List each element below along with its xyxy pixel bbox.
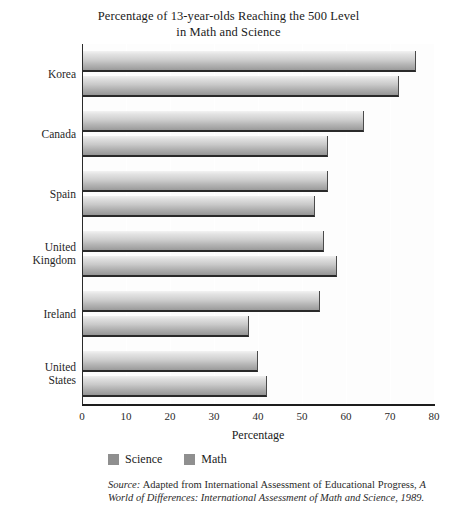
source-note: Source: Adapted from International Asses… [108,478,426,504]
legend-label-science: Science [125,452,162,467]
x-tick-label-40: 40 [238,410,278,422]
bar-science-korea [82,51,416,72]
y-tick-label-line: United [0,241,76,254]
legend-swatch-math [184,454,195,465]
y-tick-label-line: Korea [0,68,76,81]
bar-science-ireland [82,291,320,312]
x-tick-label-0: 0 [62,410,102,422]
bar-science-united-kingdom [82,231,324,252]
y-tick-label-line: Canada [0,128,76,141]
gridline-80 [434,44,435,404]
y-tick-label-line: United [0,361,76,374]
y-tick-label-line: States [0,374,76,387]
x-tick-label-60: 60 [326,410,366,422]
bar-math-united-states [82,376,267,397]
bar-math-canada [82,136,328,157]
bar-math-spain [82,196,315,217]
bar-science-spain [82,171,328,192]
plot-background [82,44,434,404]
y-tick-label-line: Kingdom [0,254,76,267]
y-tick-label-korea: Korea [0,68,76,81]
x-axis-line [82,404,435,406]
y-tick-label-line: Ireland [0,308,76,321]
x-tick-label-30: 30 [194,410,234,422]
x-tick-label-20: 20 [150,410,190,422]
bar-math-korea [82,76,399,97]
legend-label-math: Math [201,452,226,467]
y-axis-category-labels: KoreaCanadaSpainUnitedKingdomIrelandUnit… [0,0,76,514]
legend-item-math: Math [184,452,226,467]
y-tick-label-ireland: Ireland [0,308,76,321]
chart-legend: Science Math [108,452,227,467]
source-body: Adapted from International Assessment of… [140,479,419,490]
bar-chart-figure: Percentage of 13-year-olds Reaching the … [0,0,457,514]
x-tick-label-80: 80 [414,410,454,422]
source-prefix: Source: [108,479,140,490]
x-tick-label-70: 70 [370,410,410,422]
plot-area [82,44,434,404]
y-tick-label-united-states: UnitedStates [0,361,76,387]
bar-math-ireland [82,316,249,337]
y-tick-label-united-kingdom: UnitedKingdom [0,241,76,267]
y-tick-label-canada: Canada [0,128,76,141]
legend-swatch-science [108,454,119,465]
x-tick-label-10: 10 [106,410,146,422]
x-tick-label-50: 50 [282,410,322,422]
bar-science-united-states [82,351,258,372]
y-axis-line [82,44,83,405]
y-tick-label-line: Spain [0,188,76,201]
chart-title-line-1: Percentage of 13-year-olds Reaching the … [98,9,360,23]
x-axis-label: Percentage [82,428,434,443]
bar-math-united-kingdom [82,256,337,277]
legend-item-science: Science [108,452,162,467]
bar-science-canada [82,111,364,132]
y-tick-label-spain: Spain [0,188,76,201]
